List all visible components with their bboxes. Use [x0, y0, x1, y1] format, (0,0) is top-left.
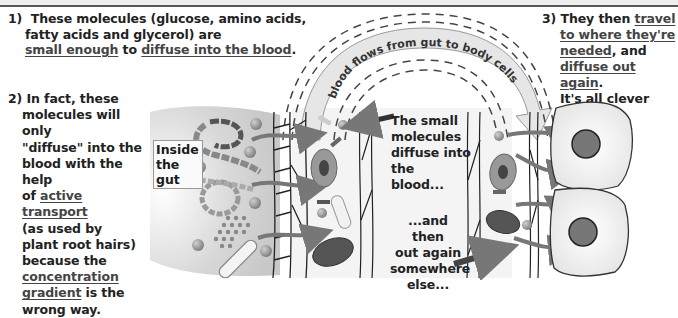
into-line: The small — [391, 113, 458, 128]
nucleus-bottom — [569, 218, 597, 246]
into-blood-label: The small molecules diffuse into the blo… — [391, 113, 471, 193]
out-line: out again — [395, 245, 461, 260]
note-2-line: is the — [81, 285, 124, 300]
gradient-term: gradient — [22, 285, 81, 300]
inside-gut-label: Inside the gut — [153, 140, 203, 189]
out-line: ...and then — [408, 213, 448, 244]
into-line: diffuse into — [391, 145, 471, 160]
note-2-line: wrong way. — [22, 302, 101, 317]
nucleus-top — [572, 130, 600, 158]
body-cells — [550, 102, 632, 276]
into-line: molecules — [391, 129, 461, 144]
into-line: the blood... — [391, 161, 444, 192]
out-line: else... — [407, 277, 449, 292]
out-line: somewhere — [390, 261, 470, 276]
out-again-label: ...and then out again somewhere else... — [390, 213, 466, 293]
